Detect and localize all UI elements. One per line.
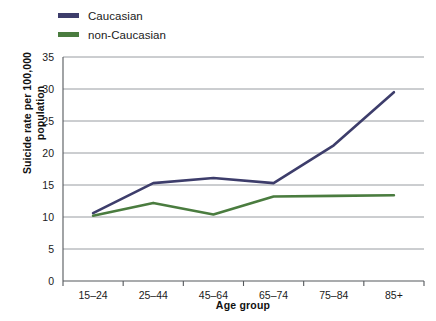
series-line-non-caucasian (93, 195, 394, 215)
line-chart: Caucasian non-Caucasian 05101520253035 1… (0, 0, 436, 321)
y-tick-label: 10 (42, 211, 54, 223)
axis-lines (63, 57, 424, 281)
gridlines (63, 57, 424, 249)
series-lines (93, 92, 394, 216)
plot-area: 05101520253035 15–2425–4445–6465–7475–84… (0, 0, 436, 321)
y-axis-title: Suicide rate per 100,000 population (21, 28, 47, 198)
y-tick-label: 5 (48, 243, 54, 255)
x-ticks (63, 281, 424, 286)
y-tick-label: 0 (48, 275, 54, 287)
x-axis-title: Age group (50, 299, 436, 311)
